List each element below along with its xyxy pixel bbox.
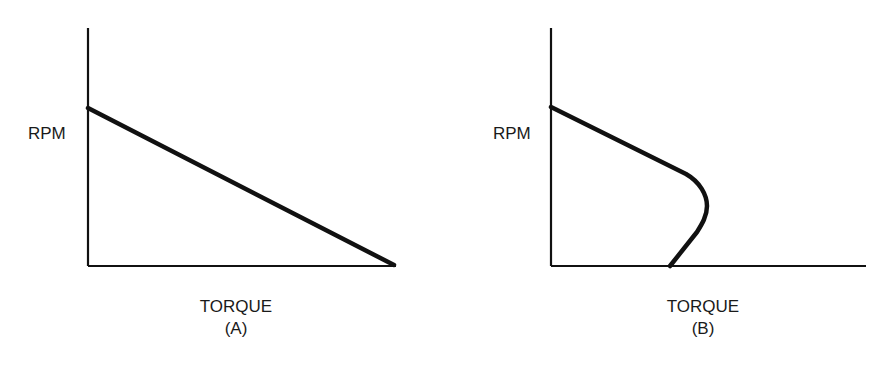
panel-a-x-label: TORQUE	[200, 298, 272, 316]
torque-rpm-figure	[0, 0, 886, 369]
panel-b-plot	[551, 28, 866, 266]
panel-a-plot	[88, 28, 396, 266]
panel-b-curve	[551, 107, 707, 266]
panel-a-curve	[88, 108, 394, 265]
panel-a-caption: (A)	[225, 320, 248, 338]
panel-b-y-label: RPM	[493, 125, 531, 143]
panel-a-y-label: RPM	[28, 125, 66, 143]
panel-b-caption: (B)	[692, 320, 715, 338]
panel-b-x-label: TORQUE	[667, 298, 739, 316]
